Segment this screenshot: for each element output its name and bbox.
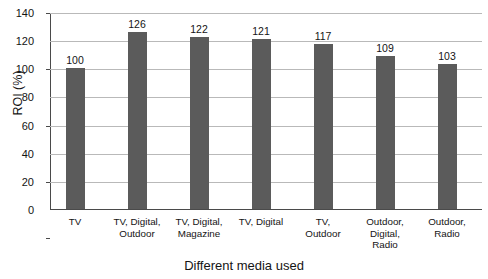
bar (376, 56, 395, 209)
chart-title (150, 0, 370, 2)
plot-area (50, 13, 482, 210)
y-tick-label-80: 80 (0, 92, 34, 103)
bar (314, 44, 333, 209)
x-category-label-line: Radio (354, 239, 416, 251)
y-tick-label-60: 60 (0, 121, 34, 132)
bar (252, 39, 271, 209)
gridline-140 (50, 13, 482, 14)
y-tick-label-40: 40 (0, 149, 34, 160)
x-category-label: TV,Outdoor (292, 216, 354, 239)
y-axis-line (50, 13, 51, 210)
tick-mark-60 (46, 238, 50, 239)
y-tick-label-0: 0 (0, 205, 34, 216)
x-axis-title: Different media used (0, 258, 488, 273)
y-tick-label-140: 140 (0, 8, 34, 19)
bar (190, 37, 209, 209)
x-category-label-line: TV, Digital, (106, 216, 168, 228)
x-category-label: Outdoor,Radio (416, 216, 478, 239)
x-category-label-line: Digital, (354, 228, 416, 240)
x-category-label-line: Outdoor, (416, 216, 478, 228)
bar-chart-figure: ROI (%) 140120100806040200 1001261221211… (0, 0, 488, 279)
bar-value-label: 122 (176, 24, 222, 35)
x-category-label-line: Outdoor (106, 228, 168, 240)
x-category-label-line: TV (44, 216, 106, 228)
y-tick-label-100: 100 (0, 64, 34, 75)
tick-mark-140 (46, 13, 50, 14)
bar-value-label: 126 (114, 19, 160, 30)
bar-value-label: 117 (300, 31, 346, 42)
bar-value-label: 121 (238, 26, 284, 37)
x-category-label: TV, Digital,Outdoor (106, 216, 168, 239)
x-category-label-line: Outdoor, (354, 216, 416, 228)
y-tick-label-20: 20 (0, 177, 34, 188)
x-category-label-line: TV, (292, 216, 354, 228)
bar (438, 64, 457, 209)
x-category-label-line: Magazine (168, 228, 230, 240)
bar-value-label: 103 (424, 51, 470, 62)
x-category-label-line: TV, Digital (230, 216, 292, 228)
x-category-label-line: TV, Digital, (168, 216, 230, 228)
x-category-label: TV, Digital,Magazine (168, 216, 230, 239)
bar-value-label: 109 (362, 43, 408, 54)
bar-value-label: 100 (52, 55, 98, 66)
bar (66, 68, 85, 209)
x-category-label-line: Outdoor (292, 228, 354, 240)
gridline-0 (50, 209, 482, 210)
x-category-label-line: Radio (416, 228, 478, 240)
x-category-label: TV, Digital (230, 216, 292, 228)
x-category-label: TV (44, 216, 106, 228)
bar (128, 32, 147, 209)
x-category-label: Outdoor,Digital,Radio (354, 216, 416, 251)
y-tick-label-120: 120 (0, 36, 34, 47)
